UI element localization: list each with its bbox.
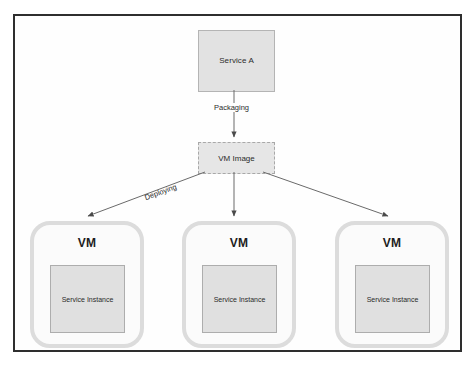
node-service-a-label: Service A [219, 57, 254, 66]
diagram-frame: Service A VM Image VM Service Instance V… [13, 14, 462, 352]
node-vm-image-label: VM Image [218, 154, 254, 163]
vm-title-1: VM [34, 236, 140, 250]
vm-container-2[interactable]: VM Service Instance [182, 221, 296, 348]
service-instance-label-3: Service Instance [367, 296, 419, 303]
service-instance-box-3[interactable]: Service Instance [355, 265, 430, 333]
node-vm-image[interactable]: VM Image [198, 142, 275, 174]
vm-title-3: VM [339, 236, 445, 250]
service-instance-label-1: Service Instance [62, 296, 114, 303]
vm-container-1[interactable]: VM Service Instance [30, 221, 144, 348]
service-instance-label-2: Service Instance [214, 296, 266, 303]
node-service-a[interactable]: Service A [198, 30, 275, 92]
service-instance-box-1[interactable]: Service Instance [50, 265, 125, 333]
edge-label-packaging: Packaging [212, 103, 251, 112]
vm-container-3[interactable]: VM Service Instance [335, 221, 449, 348]
vm-title-2: VM [186, 236, 292, 250]
service-instance-box-2[interactable]: Service Instance [202, 265, 277, 333]
